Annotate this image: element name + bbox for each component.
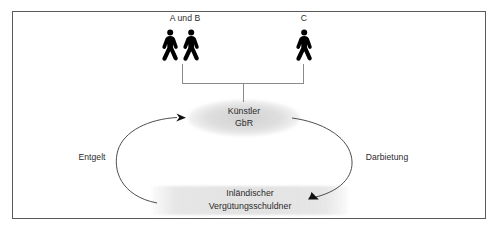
- node-verguetungsschuldner-label-line2: Vergütungsschuldner: [146, 200, 354, 213]
- node-kuenstler-gbr-label-line2: GbR: [188, 117, 300, 129]
- pedestrian-icon: [159, 29, 181, 63]
- node-kuenstler-gbr-label: Künstler GbR: [188, 105, 300, 130]
- pedestrian-icon: [180, 29, 202, 63]
- diagram-root: A und B C Künstler GbR Inländischer Verg…: [0, 0, 499, 230]
- edge-label-entgelt: Entgelt: [62, 152, 122, 164]
- pedestrian-icon: [293, 29, 315, 63]
- edge-label-darbietung: Darbietung: [349, 152, 425, 164]
- label-person-c: C: [284, 13, 324, 25]
- node-verguetungsschuldner-label-line1: Inländischer: [146, 187, 354, 200]
- node-kuenstler-gbr-label-line1: Künstler: [188, 105, 300, 117]
- label-person-group-ab: A und B: [155, 13, 215, 25]
- node-verguetungsschuldner-label: Inländischer Vergütungsschuldner: [146, 187, 354, 212]
